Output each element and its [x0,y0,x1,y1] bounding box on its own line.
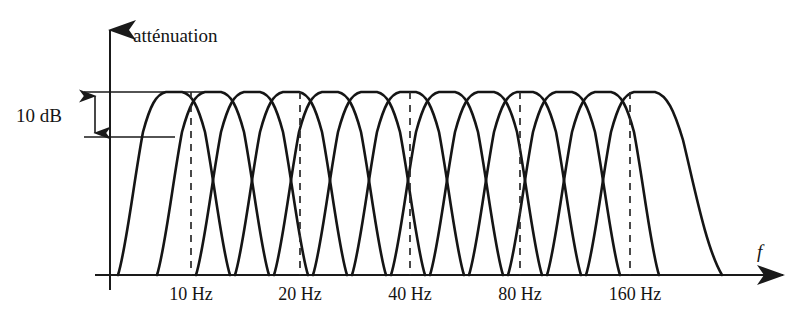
tick-label-80hz: 80 Hz [498,284,542,304]
tick-label-40hz: 40 Hz [388,284,432,304]
tick-label-160hz: 160 Hz [609,284,662,304]
x-axis-label: f [757,241,765,262]
filter-curves [118,92,722,275]
level-span-label: 10 dB [16,105,62,126]
tick-label-10hz: 10 Hz [169,284,213,304]
figure-canvas: atténuation f 10 dB 10 Hz 20 Hz 40 Hz 80… [0,0,810,321]
tick-label-20hz: 20 Hz [278,284,322,304]
filter-bank-figure: atténuation f 10 dB 10 Hz 20 Hz 40 Hz 80… [0,0,810,321]
y-axis-label: atténuation [133,25,218,46]
